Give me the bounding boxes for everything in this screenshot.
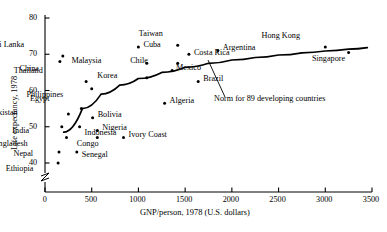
data-point-label: Argentina <box>223 44 256 52</box>
y-tick-label: 40 <box>29 159 37 167</box>
y-tick-label: 60 <box>29 87 37 95</box>
data-point <box>137 46 140 49</box>
data-point-label: Senegal <box>82 151 108 159</box>
data-point <box>78 125 81 128</box>
axes-group <box>41 15 372 192</box>
data-point <box>61 55 64 58</box>
data-point-label: Mexico <box>176 64 201 72</box>
data-point-label: Algeria <box>170 97 195 105</box>
data-point <box>58 60 61 63</box>
data-point-label: Korea <box>97 72 117 80</box>
y-tick-label: 50 <box>29 123 37 131</box>
x-tick-label: 1000 <box>129 196 145 204</box>
data-point <box>197 80 200 83</box>
data-point-label: Cuba <box>143 41 160 49</box>
data-point <box>145 76 148 79</box>
data-point <box>122 136 125 139</box>
data-point-label: Nigeria <box>102 124 127 132</box>
x-tick-label: 2500 <box>269 196 285 204</box>
data-point <box>60 125 63 128</box>
data-point-label: Sri Lanka <box>0 41 24 49</box>
x-tick-label: 3500 <box>363 196 379 204</box>
data-point <box>347 51 350 54</box>
data-point-label: Ivory Coast <box>128 131 166 139</box>
x-tick-label: 2000 <box>223 196 239 204</box>
data-point <box>58 151 61 154</box>
data-point-label: Hong Kong <box>262 32 300 40</box>
data-point <box>163 102 166 105</box>
data-point-label: Singapore <box>312 55 345 63</box>
x-tick-label: 3000 <box>316 196 332 204</box>
data-point-label: Malaysia <box>71 57 101 65</box>
data-point <box>324 46 327 49</box>
x-axis-title: GNP/person, 1978 (U.S. dollars) <box>140 209 250 217</box>
x-tick-label: 500 <box>85 196 97 204</box>
scatter-chart: Sri LankaChinaCubaTaiwanChileCosta RicaA… <box>0 0 387 232</box>
data-point <box>80 107 83 110</box>
data-point-label: Brazil <box>203 75 223 83</box>
data-point-label: Taiwan <box>139 30 163 38</box>
data-point <box>67 113 70 116</box>
x-tick-label: 0 <box>43 196 47 204</box>
y-axis-title: Life expectancy, 1978 <box>11 76 19 150</box>
data-point-label: Bolivia <box>98 111 122 119</box>
data-point <box>91 116 94 119</box>
x-tick-label: 1500 <box>176 196 192 204</box>
data-point-label: Egypt <box>30 95 50 103</box>
data-point-label: Congo <box>77 140 99 148</box>
data-point <box>171 69 174 72</box>
y-tick-label: 70 <box>29 50 37 58</box>
data-point <box>85 80 88 83</box>
norm-curve-annotation: Norm for 89 developing countries <box>214 95 325 103</box>
data-point <box>90 87 93 90</box>
data-point-label: Chile <box>130 57 148 65</box>
data-point-label: Thailand <box>14 67 43 75</box>
data-point <box>57 162 60 165</box>
data-point <box>176 44 179 47</box>
data-point <box>65 136 68 139</box>
data-point <box>187 53 190 56</box>
data-point <box>75 151 78 154</box>
y-tick-label: 80 <box>29 14 37 22</box>
